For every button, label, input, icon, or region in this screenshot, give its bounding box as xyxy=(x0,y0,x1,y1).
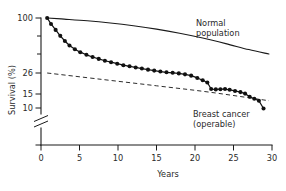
data-point-marker xyxy=(63,39,67,43)
data-point-marker xyxy=(103,59,107,63)
data-point-marker xyxy=(261,106,265,110)
x-axis-title: Years xyxy=(156,169,179,179)
y-axis-group: 100 26 15 10 Survival (%) xyxy=(7,13,48,145)
data-point-marker xyxy=(146,68,150,72)
data-point-marker xyxy=(214,87,218,91)
x-axis-group: 0 5 10 15 20 25 30 Years xyxy=(38,145,277,179)
annotation-breast-cancer: Breast cancer (operable) xyxy=(193,109,250,129)
data-point-marker xyxy=(152,69,156,73)
y-tick-label-15: 15 xyxy=(23,89,33,99)
y-axis-break-icon xyxy=(34,116,48,128)
data-point-marker xyxy=(128,64,132,68)
series-line-reference-dashed xyxy=(47,73,269,101)
y-axis-title: Survival (%) xyxy=(7,65,17,115)
data-point-marker xyxy=(209,87,213,91)
data-point-marker xyxy=(115,62,119,66)
breast-cancer-label-line1: Breast cancer xyxy=(193,109,250,119)
x-tick-label-15: 15 xyxy=(151,153,161,163)
x-tick-label-20: 20 xyxy=(190,153,200,163)
data-point-marker xyxy=(257,99,261,103)
data-point-marker xyxy=(45,16,49,20)
data-point-marker xyxy=(205,81,209,85)
data-point-marker xyxy=(189,74,193,78)
x-tick-label-25: 25 xyxy=(228,153,238,163)
y-tick-label-100: 100 xyxy=(17,13,33,23)
data-point-marker xyxy=(252,97,256,101)
data-point-marker xyxy=(67,43,71,47)
y-tick-label-26: 26 xyxy=(23,68,33,78)
normal-population-label-line2: population xyxy=(196,28,240,38)
data-point-marker xyxy=(84,53,88,57)
x-tick-label-30: 30 xyxy=(267,153,277,163)
data-point-marker xyxy=(171,71,175,75)
survival-curve-chart: 100 26 15 10 Survival (%) 0 5 10 15 20 2… xyxy=(0,0,286,191)
data-point-marker xyxy=(158,69,162,73)
data-point-marker xyxy=(223,87,227,91)
x-tick-label-5: 5 xyxy=(77,153,82,163)
x-tick-label-0: 0 xyxy=(38,153,43,163)
data-point-marker xyxy=(73,47,77,51)
data-point-marker xyxy=(78,50,82,54)
data-point-marker xyxy=(164,70,168,74)
data-point-marker xyxy=(121,63,125,67)
normal-population-label-line1: Normal xyxy=(196,18,226,28)
data-point-marker xyxy=(140,66,144,70)
data-point-marker xyxy=(109,60,113,64)
data-point-marker xyxy=(54,28,58,32)
data-point-marker xyxy=(183,72,187,76)
data-point-marker xyxy=(195,76,199,80)
annotation-normal-population: Normal population xyxy=(196,18,240,38)
x-tick-label-10: 10 xyxy=(113,153,123,163)
data-point-marker xyxy=(49,22,53,26)
data-point-marker xyxy=(248,95,252,99)
data-point-marker xyxy=(134,65,138,69)
data-point-marker xyxy=(97,57,101,61)
data-point-marker xyxy=(177,71,181,75)
data-point-marker xyxy=(233,89,237,93)
chart-page: 100 26 15 10 Survival (%) 0 5 10 15 20 2… xyxy=(0,0,286,191)
breast-cancer-label-line2: (operable) xyxy=(193,119,236,129)
data-point-marker xyxy=(201,78,205,82)
data-point-marker xyxy=(238,90,242,94)
data-point-marker xyxy=(218,87,222,91)
data-point-marker xyxy=(228,88,232,92)
data-point-marker xyxy=(243,92,247,96)
y-tick-label-10: 10 xyxy=(23,103,33,113)
data-point-marker xyxy=(58,34,62,38)
data-point-marker xyxy=(91,55,95,59)
